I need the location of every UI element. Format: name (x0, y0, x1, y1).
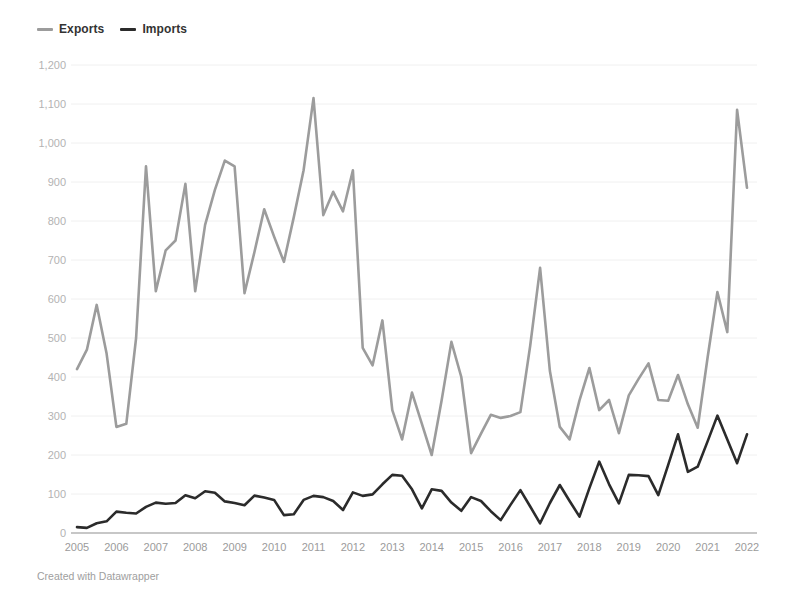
y-tick-label: 500 (48, 332, 66, 344)
x-tick-label: 2005 (65, 541, 89, 553)
y-tick-label: 800 (48, 215, 66, 227)
x-axis-tick-labels: 2005200620072008200920102011201220132014… (65, 541, 759, 553)
y-axis-tick-labels: 01002003004005006007008009001,0001,1001,… (38, 59, 66, 539)
imports-line (77, 416, 747, 528)
datawrapper-line-chart: Exports Imports 010020030040050060070080… (0, 0, 803, 614)
exports-line (77, 98, 747, 455)
horizontal-gridlines (71, 65, 757, 533)
datawrapper-attribution-link[interactable]: Created with Datawrapper (37, 570, 159, 582)
y-tick-label: 600 (48, 293, 66, 305)
chart-legend: Exports Imports (37, 22, 187, 36)
y-tick-label: 1,000 (38, 137, 66, 149)
x-tick-label: 2019 (617, 541, 641, 553)
y-tick-label: 700 (48, 254, 66, 266)
x-tick-label: 2022 (735, 541, 759, 553)
x-tick-label: 2018 (577, 541, 601, 553)
y-tick-label: 900 (48, 176, 66, 188)
imports-line-swatch-icon (120, 28, 136, 31)
x-tick-label: 2010 (262, 541, 286, 553)
y-tick-label: 1,200 (38, 59, 66, 71)
x-tick-label: 2008 (183, 541, 207, 553)
data-series-lines (77, 98, 747, 528)
x-tick-label: 2012 (341, 541, 365, 553)
x-tick-label: 2017 (538, 541, 562, 553)
legend-item-imports: Imports (120, 22, 187, 36)
legend-label-imports: Imports (142, 22, 187, 36)
x-tick-label: 2014 (419, 541, 443, 553)
y-tick-label: 1,100 (38, 98, 66, 110)
x-tick-label: 2007 (144, 541, 168, 553)
datawrapper-attribution: Created with Datawrapper (37, 570, 159, 582)
x-tick-label: 2009 (222, 541, 246, 553)
exports-line-swatch-icon (37, 28, 53, 31)
x-tick-label: 2013 (380, 541, 404, 553)
y-tick-label: 0 (60, 527, 66, 539)
y-tick-label: 400 (48, 371, 66, 383)
y-tick-label: 300 (48, 410, 66, 422)
x-tick-label: 2015 (459, 541, 483, 553)
x-tick-label: 2016 (498, 541, 522, 553)
legend-label-exports: Exports (59, 22, 104, 36)
line-chart-plot-area: 01002003004005006007008009001,0001,1001,… (0, 0, 803, 614)
legend-item-exports: Exports (37, 22, 104, 36)
x-tick-label: 2006 (104, 541, 128, 553)
y-tick-label: 100 (48, 488, 66, 500)
x-tick-label: 2011 (302, 541, 326, 553)
x-tick-label: 2021 (695, 541, 719, 553)
x-tick-label: 2020 (656, 541, 680, 553)
y-tick-label: 200 (48, 449, 66, 461)
